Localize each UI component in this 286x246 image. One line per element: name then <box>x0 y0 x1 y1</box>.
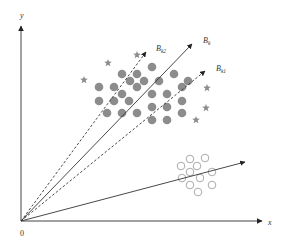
hollow-point <box>194 188 202 196</box>
x-axis-label: x <box>267 218 272 227</box>
hollow-point <box>177 162 185 170</box>
labels: y x 0 BkBk2Bk1 <box>19 11 272 238</box>
star-icon <box>192 116 200 123</box>
filled-point <box>118 70 127 79</box>
filled-point <box>95 83 104 92</box>
vector-lower <box>21 162 245 221</box>
filled-point <box>126 77 135 86</box>
hollow-point <box>201 154 209 162</box>
filled-point <box>163 90 172 99</box>
filled-point <box>178 109 187 118</box>
y-axis-label: y <box>19 11 24 20</box>
hollow-point <box>208 181 216 189</box>
filled-point <box>133 109 142 118</box>
filled-point <box>148 63 157 72</box>
vector-label-Bk: Bk <box>203 36 211 46</box>
filled-points-cluster <box>95 63 193 125</box>
vector-diagram: y x 0 BkBk2Bk1 <box>0 0 286 246</box>
star-icon <box>80 76 88 83</box>
filled-point <box>95 97 104 106</box>
filled-point <box>140 77 149 86</box>
filled-point <box>148 116 157 125</box>
vector-label-Bk1: Bk1 <box>216 64 226 74</box>
filled-point <box>170 70 179 79</box>
filled-point <box>148 103 157 112</box>
star-icon <box>202 104 210 111</box>
star-icon <box>133 51 141 58</box>
hollow-point <box>196 174 204 182</box>
filled-point <box>133 83 142 92</box>
star-icon <box>203 84 211 91</box>
filled-point <box>110 97 119 106</box>
vector-Bk <box>21 44 192 221</box>
vector-label-Bk2: Bk2 <box>156 44 166 54</box>
vector-Bk1 <box>21 71 205 221</box>
filled-point <box>178 97 187 106</box>
vectors <box>21 44 245 221</box>
filled-point <box>125 97 134 106</box>
hollow-point <box>186 155 194 163</box>
filled-point <box>133 70 142 79</box>
hollow-point <box>186 181 194 189</box>
hollow-point <box>193 162 201 170</box>
filled-point <box>110 83 119 92</box>
filled-point <box>163 116 172 125</box>
hollow-point <box>186 168 194 176</box>
filled-point <box>118 90 127 99</box>
filled-point <box>148 90 157 99</box>
star-icon <box>104 59 112 66</box>
filled-point <box>103 109 112 118</box>
hollow-point <box>208 168 216 176</box>
origin-label: 0 <box>20 229 24 238</box>
